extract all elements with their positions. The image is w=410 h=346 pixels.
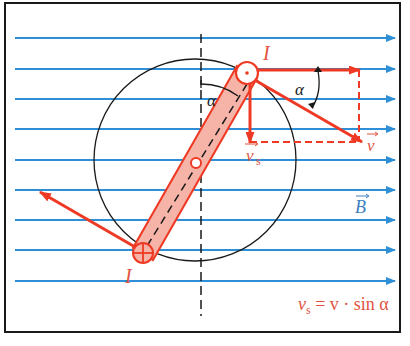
svg-text:vs = v · sin α: vs = v · sin α: [298, 294, 389, 317]
angle-label-left: α: [207, 91, 217, 110]
conductor-bottom-cross-icon: [133, 243, 153, 263]
formula: vs = v · sin α: [298, 294, 389, 317]
current-label-top: I: [262, 42, 271, 64]
svg-text:v: v: [367, 136, 375, 155]
svg-text:v: v: [246, 146, 254, 165]
pivot-point: [191, 158, 201, 168]
diagram-canvas: α I α I v s v B: [0, 0, 410, 346]
conductor-top-dot-icon: [236, 62, 258, 84]
svg-text:s: s: [256, 154, 261, 168]
svg-text:B: B: [355, 197, 366, 217]
angle-label-right: α: [295, 80, 305, 99]
current-label-bottom: I: [124, 265, 133, 287]
